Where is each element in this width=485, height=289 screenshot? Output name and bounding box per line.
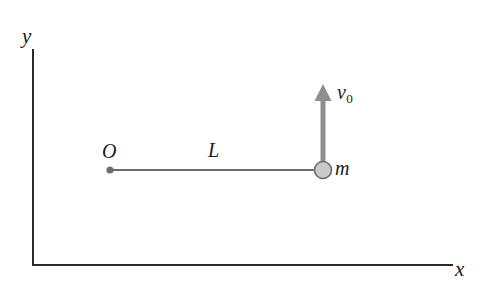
velocity-label-symbol: v bbox=[337, 81, 346, 103]
rod-length-label: L bbox=[208, 140, 219, 160]
velocity-arrow-head bbox=[315, 84, 332, 101]
mass-circle bbox=[315, 162, 332, 179]
velocity-label: v0 bbox=[337, 82, 352, 102]
diagram-canvas bbox=[0, 0, 485, 289]
velocity-label-subscript: 0 bbox=[346, 91, 353, 106]
x-axis-label: x bbox=[455, 259, 464, 280]
pivot-point bbox=[106, 166, 113, 173]
y-axis-label: y bbox=[22, 26, 31, 47]
pivot-label: O bbox=[102, 141, 116, 161]
physics-diagram: y x O L m v0 bbox=[0, 0, 485, 289]
mass-label: m bbox=[335, 158, 349, 178]
